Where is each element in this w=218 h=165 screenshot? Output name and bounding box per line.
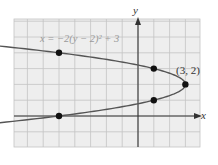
- vertex-label: (3, 2): [176, 64, 200, 77]
- data-point: [56, 50, 62, 56]
- data-point: [151, 65, 157, 71]
- x-axis-label: x: [200, 109, 206, 121]
- data-point: [56, 113, 62, 119]
- y-axis-label: y: [132, 4, 138, 16]
- equation-label: x = −2(y − 2)² + 3: [39, 33, 119, 45]
- data-point: [151, 97, 157, 103]
- data-point: [182, 81, 188, 87]
- parabola-chart: x = −2(y − 2)² + 3 (3, 2) y x: [0, 0, 218, 165]
